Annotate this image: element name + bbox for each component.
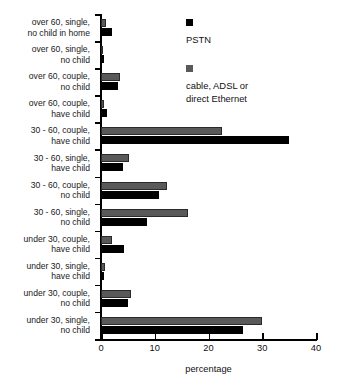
bar-pstn [101,191,159,199]
category-label: 30 - 60, couple,no child [0,180,90,201]
category-label-list: over 60, single,no child in homeover 60,… [0,14,96,339]
bar-group [101,231,316,258]
bar-cable-adsl-ethernet [101,317,262,325]
category-label: over 60, couple,no child [0,71,90,92]
bar-cable-adsl-ethernet [101,290,131,298]
bar-cable-adsl-ethernet [101,100,104,108]
bar-pstn [101,82,118,90]
bar-pstn [101,218,147,226]
category-label-line: have child [0,271,90,281]
bar-group [101,149,316,176]
category-label-line: under 30, couple, [0,288,90,298]
category-label: over 60, couple,have child [0,98,90,119]
bar-group [101,258,316,285]
category-label-line: over 60, single, [0,17,90,27]
category-label-line: have child [0,109,90,119]
bar-pstn [101,245,124,253]
category-label-line: 30 - 60, single, [0,153,90,163]
category-label: under 30, couple,no child [0,288,90,309]
category-label-line: no child [0,325,90,335]
category-label: 30 - 60, single,have child [0,153,90,174]
bar-cable-adsl-ethernet [101,182,167,190]
legend-swatch-cable-adsl-ethernet [186,65,193,72]
legend-item-cable-adsl-ethernet: cable, ADSL or direct Ethernet [186,62,336,105]
category-label-line: no child [0,82,90,92]
category-label-line: under 30, single, [0,315,90,325]
bar-pstn [101,326,243,334]
bar-cable-adsl-ethernet [101,19,106,27]
category-label-line: over 60, single, [0,44,90,54]
x-axis-tick [209,333,211,340]
category-label-line: under 30, single, [0,261,90,271]
bar-pstn [101,299,128,307]
category-label-line: have child [0,163,90,173]
chart-legend: PSTN cable, ADSL or direct Ethernet [186,16,336,121]
bar-cable-adsl-ethernet [101,209,188,217]
category-label-line: under 30, couple, [0,234,90,244]
category-label-line: no child [0,298,90,308]
bar-cable-adsl-ethernet [101,236,112,244]
bar-cable-adsl-ethernet [101,263,105,271]
bar-group [101,177,316,204]
x-axis-tick-label: 20 [189,343,229,353]
category-label-line: 30 - 60, couple, [0,180,90,190]
category-label: 30 - 60, couple,have child [0,125,90,146]
bar-cable-adsl-ethernet [101,154,129,162]
x-axis-tick-label: 40 [296,343,336,353]
x-axis-tick [101,333,103,340]
bar-pstn [101,28,112,36]
category-label-line: no child in home [0,28,90,38]
x-axis-tick [262,333,264,340]
x-axis-tick [316,333,318,340]
category-label: over 60, single,no child [0,44,90,65]
category-label: over 60, single,no child in home [0,17,90,38]
x-axis-tick-label: 30 [242,343,282,353]
legend-label-cable-adsl-ethernet: cable, ADSL or direct Ethernet [186,80,336,105]
bar-pstn [101,55,104,63]
bar-pstn [101,163,123,171]
x-axis-tick-label: 10 [135,343,175,353]
bar-pstn [101,136,289,144]
category-label-line: over 60, couple, [0,71,90,81]
horizontal-bar-chart: over 60, single,no child in homeover 60,… [0,0,338,389]
category-label-line: 30 - 60, single, [0,207,90,217]
category-label-line: no child [0,55,90,65]
x-axis-title: percentage [101,364,316,374]
bar-group [101,122,316,149]
category-label-line: have child [0,136,90,146]
category-label-line: over 60, couple, [0,98,90,108]
category-label-line: have child [0,244,90,254]
legend-swatch-pstn [186,19,193,26]
x-axis-tick [155,333,157,340]
bar-cable-adsl-ethernet [101,46,103,54]
category-label-line: 30 - 60, couple, [0,125,90,135]
legend-item-pstn: PSTN [186,16,336,46]
category-label-line: no child [0,190,90,200]
x-axis-tick-label: 0 [81,343,121,353]
bar-cable-adsl-ethernet [101,127,222,135]
category-label: under 30, couple,have child [0,234,90,255]
bar-cable-adsl-ethernet [101,73,120,81]
category-label-line: no child [0,217,90,227]
bar-pstn [101,272,104,280]
legend-label-pstn: PSTN [186,34,336,46]
category-label: 30 - 60, single,no child [0,207,90,228]
bar-group [101,285,316,312]
category-label: under 30, single,no child [0,315,90,336]
bar-pstn [101,109,107,117]
category-label: under 30, single,have child [0,261,90,282]
bar-group [101,204,316,231]
